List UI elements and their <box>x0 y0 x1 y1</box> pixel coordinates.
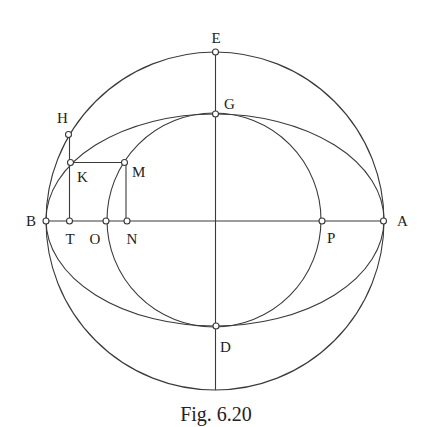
point-T <box>67 218 73 224</box>
label-B: B <box>26 213 36 229</box>
label-A: A <box>397 213 408 229</box>
label-T: T <box>65 231 74 247</box>
label-N: N <box>127 231 138 247</box>
point-N <box>124 218 130 224</box>
label-P: P <box>327 230 335 246</box>
inner-circle <box>107 113 321 327</box>
point-A <box>381 218 387 224</box>
point-O <box>103 218 109 224</box>
label-G: G <box>224 96 235 112</box>
point-B <box>43 218 49 224</box>
point-H <box>66 132 72 138</box>
point-K <box>68 160 74 166</box>
point-P <box>319 218 325 224</box>
point-G <box>213 111 219 117</box>
label-E: E <box>211 30 220 46</box>
label-K: K <box>77 169 88 185</box>
figure-6-20: E G H K M B T O N P A D Fig. 6.20 <box>0 0 433 427</box>
point-E <box>213 49 219 55</box>
figure-caption: Fig. 6.20 <box>180 403 252 426</box>
point-D <box>213 323 219 329</box>
label-M: M <box>132 164 145 180</box>
label-O: O <box>90 231 101 247</box>
label-D: D <box>220 339 231 355</box>
point-M <box>122 160 128 166</box>
label-H: H <box>57 110 68 126</box>
